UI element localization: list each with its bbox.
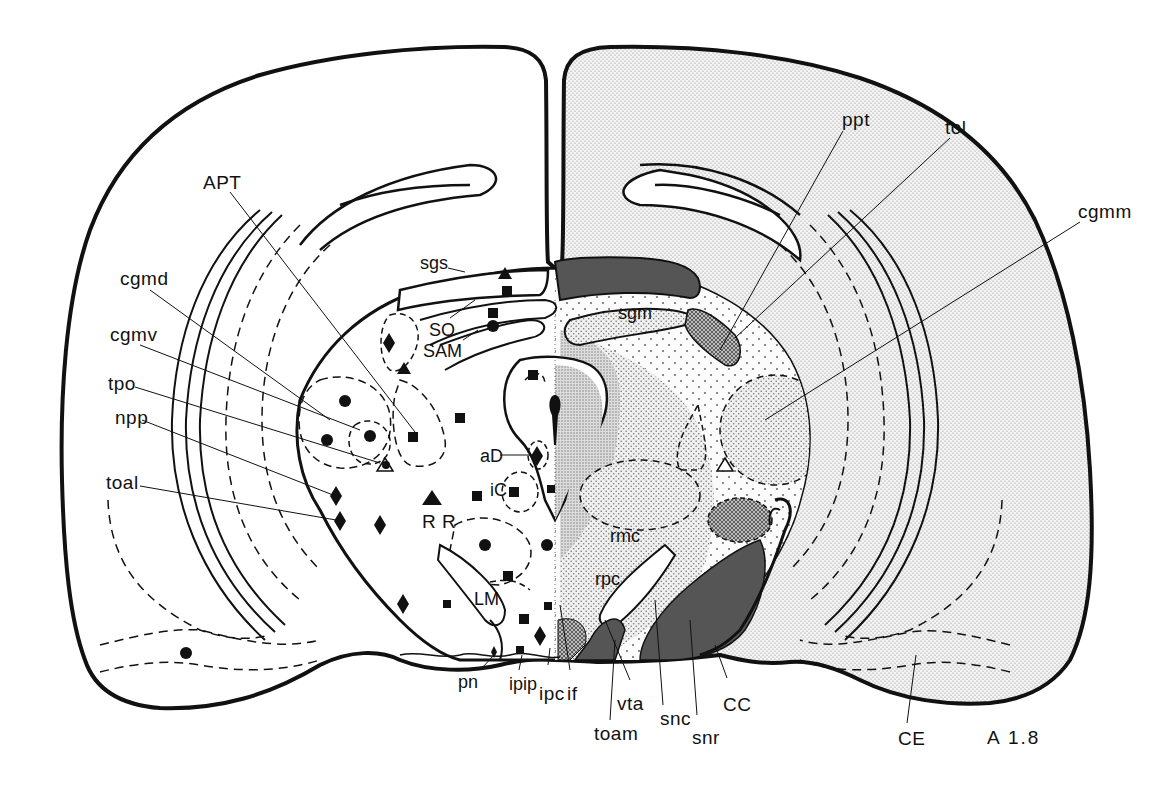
label-ppt: ppt bbox=[842, 109, 870, 130]
label-aD: aD bbox=[480, 446, 503, 466]
label-toal: toal bbox=[106, 472, 139, 493]
label-CC: CC bbox=[723, 694, 751, 715]
label-RR: R R bbox=[422, 511, 456, 532]
label-LM: LM bbox=[474, 589, 499, 609]
brain-section-figure: APT cgmd cgmv tpo npp toal sgs SO SAM aD… bbox=[0, 0, 1160, 796]
label-SAM: SAM bbox=[423, 341, 462, 361]
label-cgmd: cgmd bbox=[120, 268, 168, 289]
label-ipc: ipc bbox=[539, 683, 565, 704]
label-iC: iC bbox=[490, 480, 507, 500]
dark-region-sgs-right bbox=[555, 257, 700, 300]
label-cgmm: cgmm bbox=[1078, 201, 1132, 222]
label-SO: SO bbox=[429, 320, 455, 340]
label-toam: toam bbox=[594, 723, 638, 744]
label-pn: pn bbox=[458, 672, 478, 692]
label-tol: tol bbox=[945, 117, 967, 138]
label-snc: snc bbox=[660, 708, 691, 729]
label-CE: CE bbox=[898, 728, 925, 749]
label-cgmv: cgmv bbox=[110, 324, 157, 345]
label-ipip: ipip bbox=[509, 674, 537, 694]
label-vta: vta bbox=[617, 693, 644, 714]
plate-label: A 1.8 bbox=[987, 727, 1040, 748]
label-rpc: rpc bbox=[595, 569, 620, 589]
label-npp: npp bbox=[115, 407, 148, 428]
label-APT: APT bbox=[203, 172, 241, 193]
label-tpo: tpo bbox=[108, 373, 136, 394]
label-if: if bbox=[567, 683, 578, 704]
label-sgm: sgm bbox=[618, 303, 652, 323]
label-snr: snr bbox=[692, 727, 720, 748]
label-sgs: sgs bbox=[420, 253, 448, 273]
label-rmc: rmc bbox=[610, 526, 640, 546]
